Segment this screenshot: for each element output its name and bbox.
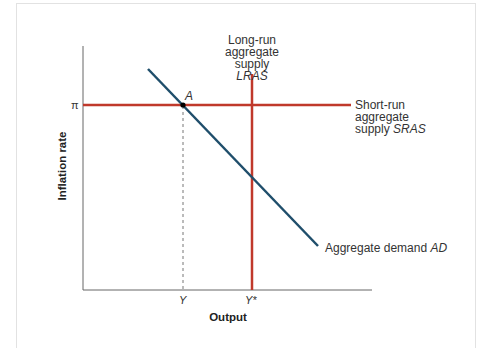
lras-label: Long-run aggregate supply LRAS	[218, 34, 286, 82]
point-a-label: A	[185, 90, 193, 102]
ad-line	[148, 69, 318, 246]
x-axis-title: Output	[188, 311, 268, 323]
ystar-tick-label: Y*	[245, 294, 257, 306]
pi-tick-label: π	[71, 99, 79, 111]
y-tick-label: Y	[179, 294, 186, 306]
y-axis-title: Inflation rate	[56, 116, 68, 216]
ad-label: Aggregate demand AD	[325, 242, 447, 254]
point-a-marker	[180, 102, 185, 107]
sras-label: Short-run aggregate supply SRAS	[355, 99, 426, 135]
